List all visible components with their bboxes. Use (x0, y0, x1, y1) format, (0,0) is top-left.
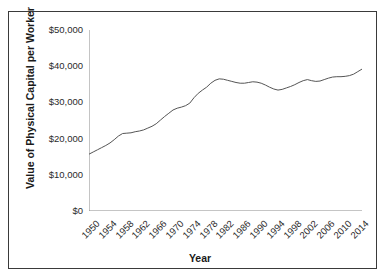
y-axis-tick-label: $20,000 (27, 133, 83, 144)
y-axis-tick-label: $50,000 (27, 24, 83, 35)
y-axis-tick-label: $30,000 (27, 96, 83, 107)
data-series-line (89, 69, 362, 154)
plot-area (89, 30, 362, 211)
line-chart-svg (89, 30, 362, 211)
y-axis-tick-label: $40,000 (27, 60, 83, 71)
axes-group (89, 30, 362, 211)
chart-container: Value of Physical Capital per Worker Yea… (0, 0, 387, 280)
y-axis-tick-label: $10,000 (27, 169, 83, 180)
y-axis-tick-label: $0 (27, 205, 83, 216)
